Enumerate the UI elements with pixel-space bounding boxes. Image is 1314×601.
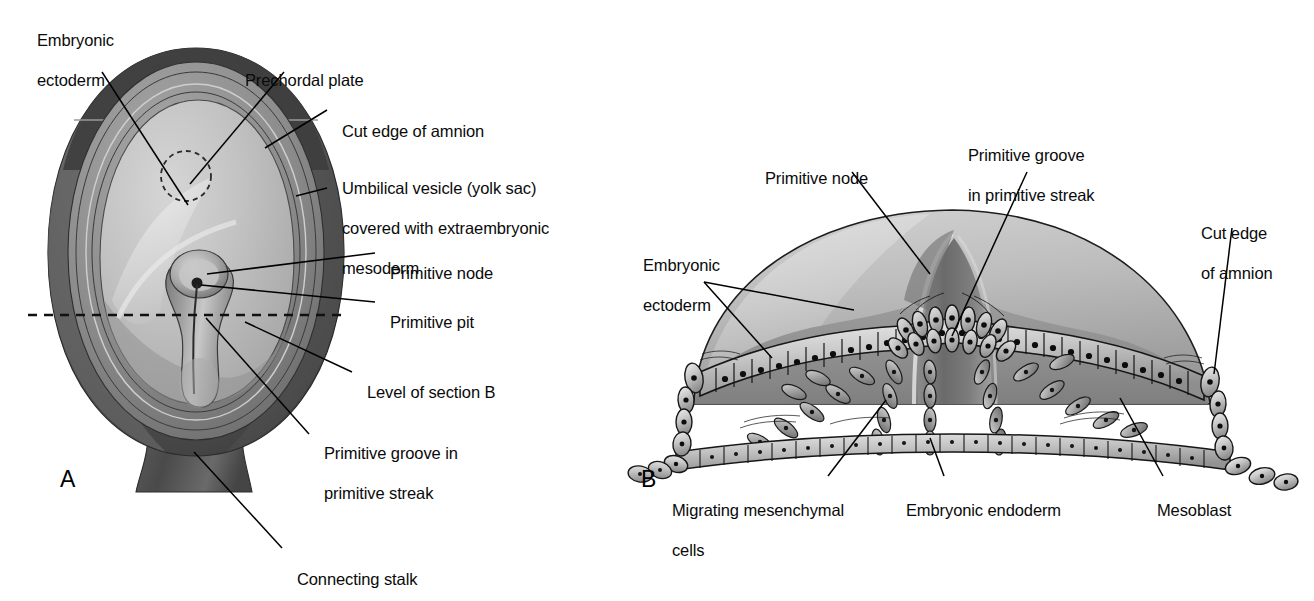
label-line: Primitive node xyxy=(765,169,868,187)
label-line: Mesoblast xyxy=(1157,501,1231,519)
label-migrating-mesenchymal-cells-b: Migrating mesenchymal cells xyxy=(663,480,844,560)
label-line: covered with extraembryonic xyxy=(342,219,549,237)
label-primitive-node-b: Primitive node xyxy=(756,148,868,188)
label-connecting-stalk-a: Connecting stalk xyxy=(288,549,417,589)
label-prechordal-plate-a: Prechordal plate xyxy=(236,50,364,90)
label-primitive-groove-b: Primitive groove in primitive streak xyxy=(959,125,1094,205)
label-line: Primitive groove in xyxy=(324,444,458,462)
label-line: ectoderm xyxy=(37,71,105,89)
label-line: Connecting stalk xyxy=(297,570,417,588)
label-primitive-pit-a: Primitive pit xyxy=(381,292,474,332)
label-embryonic-ectoderm-a: Embryonic ectoderm xyxy=(28,10,114,90)
label-line: of amnion xyxy=(1201,264,1273,282)
label-line: Primitive node xyxy=(390,264,493,282)
label-embryonic-endoderm-b: Embryonic endoderm xyxy=(897,480,1061,520)
primitive-streak-caudal xyxy=(179,358,219,408)
label-primitive-groove-a: Primitive groove in primitive streak xyxy=(315,423,458,503)
label-embryonic-ectoderm-b: Embryonic ectoderm xyxy=(634,235,720,315)
label-line: Cut edge of amnion xyxy=(342,122,484,140)
label-line: Umbilical vesicle (yolk sac) xyxy=(342,179,536,197)
label-cut-edge-of-amnion-a: Cut edge of amnion xyxy=(333,101,484,141)
label-line: in primitive streak xyxy=(968,186,1094,204)
label-line: Embryonic endoderm xyxy=(906,501,1061,519)
label-line: Migrating mesenchymal xyxy=(672,501,844,519)
label-line: Embryonic xyxy=(37,31,114,49)
label-line: Level of section B xyxy=(367,383,495,401)
label-line: Prechordal plate xyxy=(245,71,364,89)
label-line: Primitive groove xyxy=(968,146,1085,164)
label-cut-edge-of-amnion-b: Cut edge of amnion xyxy=(1192,203,1273,283)
panel-letter-b: B xyxy=(641,466,656,493)
label-line: Cut edge xyxy=(1201,224,1267,242)
label-mesoblast-b: Mesoblast xyxy=(1148,480,1231,520)
label-line: Primitive pit xyxy=(390,313,474,331)
label-line: cells xyxy=(672,541,705,559)
label-primitive-node-a: Primitive node xyxy=(381,243,493,283)
label-level-of-section-b-a: Level of section B xyxy=(358,362,495,402)
label-line: ectoderm xyxy=(643,296,711,314)
panel-letter-a: A xyxy=(60,466,75,493)
label-line: Embryonic xyxy=(643,256,720,274)
label-line: primitive streak xyxy=(324,484,433,502)
